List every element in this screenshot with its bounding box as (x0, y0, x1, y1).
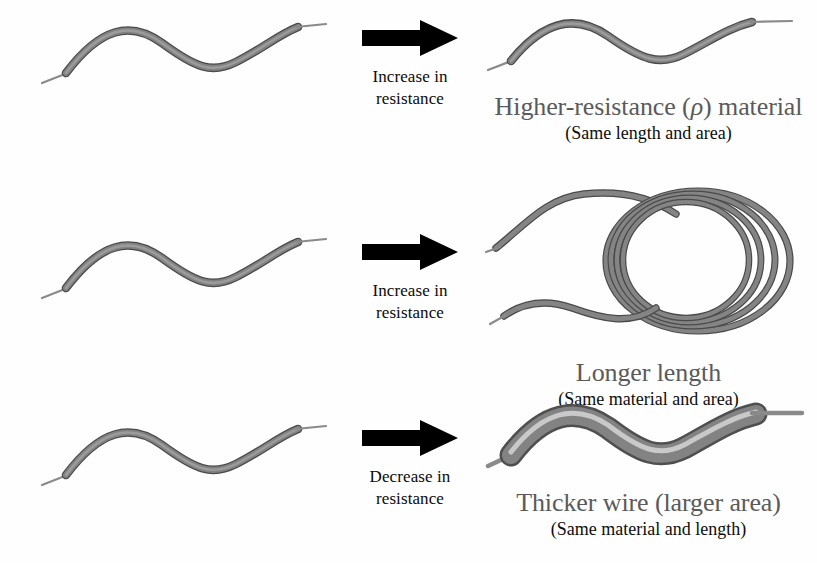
after-wire-cell: Longer length (Same material and area) (480, 168, 817, 410)
reference-wire (30, 225, 330, 309)
after-label: Thicker wire (larger area) (480, 488, 817, 518)
reference-wire (30, 10, 330, 94)
transition-cell: Increase in resistance (330, 232, 490, 325)
after-label: Longer length (480, 358, 817, 388)
coiled-wire-icon (480, 168, 817, 358)
right-block-arrow-icon (358, 18, 462, 58)
thin-wavy-wire-icon (30, 225, 330, 305)
higher-resistance-wire (480, 8, 817, 90)
before-wire-cell (30, 412, 330, 496)
before-wire-cell (30, 10, 330, 94)
diagram-canvas: Increase in resistance Higher-resistance… (0, 0, 817, 563)
arrow-caption-line2: resistance (330, 488, 490, 510)
arrow-caption: Decrease in resistance (330, 466, 490, 511)
after-label-prefix: Thicker wire (larger area) (516, 488, 781, 517)
after-label-suffix: ) material (703, 92, 802, 121)
after-label: Higher-resistance (ρ) material (480, 92, 817, 122)
thin-wavy-wire-icon (30, 10, 330, 90)
thick-wavy-wire-icon (480, 402, 817, 484)
arrow-caption-line1: Increase in (330, 280, 490, 302)
thin-wavy-wire-icon (30, 412, 330, 492)
after-label-prefix: Higher-resistance ( (495, 92, 691, 121)
before-wire-cell (30, 225, 330, 309)
transition-cell: Increase in resistance (330, 18, 490, 111)
transition-cell: Decrease in resistance (330, 418, 490, 511)
after-wire-cell: Higher-resistance (ρ) material (Same len… (480, 8, 817, 144)
after-label-prefix: Longer length (576, 358, 721, 387)
arrow-caption: Increase in resistance (330, 280, 490, 325)
diagram-row-higher-resistance-material: Increase in resistance Higher-resistance… (0, 0, 817, 190)
arrow-caption-line1: Increase in (330, 66, 490, 88)
after-wire-cell: Thicker wire (larger area) (Same materia… (480, 402, 817, 540)
right-block-arrow-icon (358, 418, 462, 458)
thin-wavy-wire-icon (480, 8, 817, 86)
right-block-arrow-icon (358, 232, 462, 272)
after-sublabel: (Same material and length) (480, 519, 817, 540)
arrow-caption-line1: Decrease in (330, 466, 490, 488)
diagram-row-longer-length: Increase in resistance (0, 180, 817, 390)
arrow-caption-line2: resistance (330, 302, 490, 324)
rho-symbol: ρ (691, 92, 703, 121)
arrow-caption: Increase in resistance (330, 66, 490, 111)
reference-wire (30, 412, 330, 496)
coiled-long-wire (480, 168, 817, 362)
arrow-caption-line2: resistance (330, 88, 490, 110)
diagram-row-thicker-wire: Decrease in resistance Thicker wire (lar… (0, 390, 817, 563)
thick-wavy-wire (480, 402, 817, 488)
after-sublabel: (Same length and area) (480, 123, 817, 144)
